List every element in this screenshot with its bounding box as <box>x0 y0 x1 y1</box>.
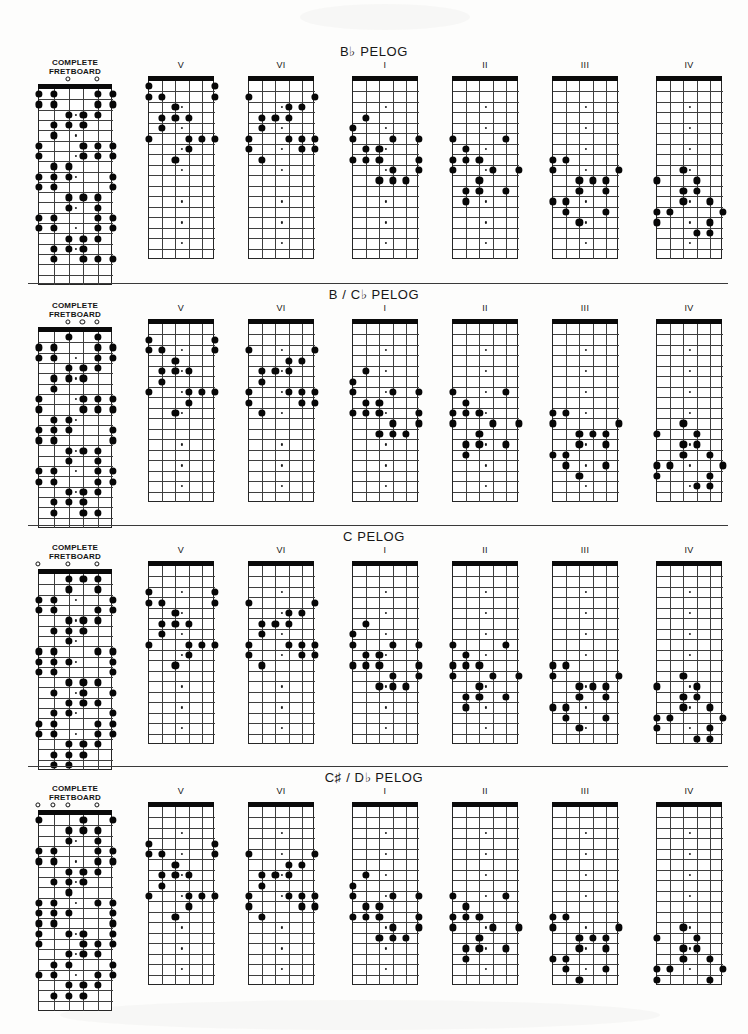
scale-note-dot <box>35 940 42 947</box>
fret-line <box>453 175 519 176</box>
fret-line <box>249 387 315 388</box>
fret-marker-dot <box>75 227 77 229</box>
fret-line <box>353 249 419 250</box>
scale-note-dot <box>109 142 116 149</box>
scale-note-dot <box>50 91 57 98</box>
scale-note-dot <box>50 848 57 855</box>
fret-marker-dot <box>281 485 283 487</box>
scale-note-dot <box>35 354 42 361</box>
string-line <box>69 89 70 285</box>
fretboard-grid <box>552 807 618 985</box>
fret-marker-dot <box>689 169 691 171</box>
fret-line <box>39 970 113 971</box>
fret-line <box>657 376 723 377</box>
scale-note-dot <box>211 388 218 395</box>
scale-note-dot <box>80 627 87 634</box>
scale-note-dot <box>65 111 72 118</box>
fret-line <box>453 429 519 430</box>
scale-note-dot <box>376 430 383 437</box>
string-line <box>697 566 698 744</box>
scale-note-dot <box>245 651 252 658</box>
scale-note-dot <box>502 641 509 648</box>
scale-note-dot <box>463 145 470 152</box>
fret-marker-dot <box>485 727 487 729</box>
fretboard-grid <box>656 566 722 744</box>
scale-note-dot <box>449 388 456 395</box>
fret-marker-dot <box>75 450 77 452</box>
scale-note-dot <box>145 599 152 606</box>
fret-line <box>553 597 619 598</box>
fret-line <box>553 692 619 693</box>
scale-note-dot <box>109 354 116 361</box>
fret-line <box>39 353 113 354</box>
scale-note-dot <box>680 166 687 173</box>
fret-marker-dot <box>585 968 587 970</box>
scale-note-dot <box>245 399 252 406</box>
fret-line <box>249 650 315 651</box>
scale-note-dot <box>376 177 383 184</box>
scale-note-dot <box>198 641 205 648</box>
scale-note-dot <box>172 357 179 364</box>
scale-note-dot <box>109 596 116 603</box>
scale-note-dot <box>463 409 470 416</box>
scale-note-dot <box>311 347 318 354</box>
fret-line <box>249 112 315 113</box>
fret-marker-dot <box>181 591 183 593</box>
fret-marker-dot <box>75 176 77 178</box>
scale-note-dot <box>463 187 470 194</box>
fret-line <box>657 492 723 493</box>
scale-note-dot <box>515 924 522 931</box>
scale-note-dot <box>95 509 102 516</box>
fret-line <box>657 828 723 829</box>
scale-note-dot <box>476 913 483 920</box>
fret-marker-dot <box>689 391 691 393</box>
scale-note-dot <box>489 420 496 427</box>
scale-note-dot <box>653 177 660 184</box>
scale-note-dot <box>80 152 87 159</box>
fret-line <box>657 408 723 409</box>
fret-line <box>39 867 113 868</box>
scan-artifact <box>300 4 470 30</box>
fret-marker-dot <box>485 685 487 687</box>
fret-marker-dot <box>385 853 387 855</box>
string-line <box>189 324 190 502</box>
scale-note-dot <box>95 204 102 211</box>
scale-note-dot <box>402 430 409 437</box>
scale-note-dot <box>402 177 409 184</box>
fret-line <box>249 681 315 682</box>
fret-line <box>353 471 419 472</box>
scale-note-dot <box>109 858 116 865</box>
fret-line <box>657 838 723 839</box>
fret-line <box>553 954 619 955</box>
fretboard-grid <box>248 81 314 259</box>
scale-note-dot <box>50 920 57 927</box>
scale-note-dot <box>145 840 152 847</box>
scale-note-dot <box>65 334 72 341</box>
string-line <box>493 566 494 744</box>
fret-line <box>149 460 215 461</box>
scale-note-dot <box>95 478 102 485</box>
fret-line <box>353 355 419 356</box>
position-label: IV <box>656 303 722 313</box>
fret-marker-dot <box>181 947 183 949</box>
scale-note-dot <box>463 451 470 458</box>
scale-note-dot <box>449 892 456 899</box>
fret-marker-dot <box>181 349 183 351</box>
scale-note-dot <box>50 437 57 444</box>
fret-marker-dot <box>385 706 387 708</box>
fret-line <box>453 366 519 367</box>
fret-line <box>149 207 215 208</box>
fret-marker-dot <box>385 391 387 393</box>
scale-note-dot <box>95 468 102 475</box>
fret-line <box>553 228 619 229</box>
scale-note-dot <box>376 651 383 658</box>
fret-line <box>149 734 215 735</box>
fret-line <box>149 492 215 493</box>
scale-note-dot <box>615 166 622 173</box>
fret-line <box>553 922 619 923</box>
fret-marker-dot <box>385 106 387 108</box>
scale-note-dot <box>35 720 42 727</box>
section-divider <box>28 525 728 526</box>
position-label: IV <box>656 60 722 70</box>
fret-marker-dot <box>485 464 487 466</box>
